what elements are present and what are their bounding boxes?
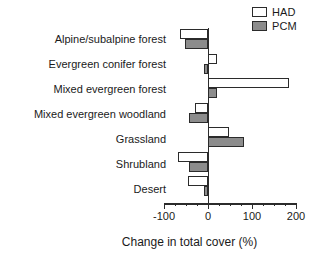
axis-tick--50 [186,203,187,206]
category-label-alpine-subalpine-forest: Alpine/subalpine forest [55,34,166,45]
axis-tick-125 [263,203,264,206]
axis-tick-175 [285,203,286,206]
bar-had-shrubland [178,152,208,162]
bar-had-desert [188,176,208,186]
bar-pcm-evergreen-conifer-forest [204,64,208,74]
value-axis-line [164,203,296,205]
axis-tick--75 [175,203,176,206]
bar-pcm-grassland [208,137,244,147]
bar-had-evergreen-conifer-forest [208,54,217,64]
bar-pcm-alpine-subalpine-forest [185,39,208,49]
category-label-mixed-evergreen-woodland: Mixed evergreen woodland [34,109,166,120]
axis-tick-100 [252,203,253,209]
x-axis-title: Change in total cover (%) [0,236,319,249]
x-axis-title-text: Change in total cover (%) [62,235,257,249]
bar-pcm-shrubland [189,162,208,172]
bar-had-grassland [208,127,229,137]
chart-figure: HAD PCM Alpine/subalpine forest Evergree… [0,0,319,269]
category-label-desert: Desert [134,184,166,195]
axis-tick-50 [230,203,231,206]
axis-tick-0 [208,203,209,209]
axis-tick-25 [219,203,220,206]
legend-label-had: HAD [272,7,296,18]
value-axis-tick-labels: -100 0 100 200 [164,210,296,224]
bar-had-mixed-evergreen-woodland [195,103,208,113]
tick-label-neg100: -100 [153,210,175,222]
bar-pcm-mixed-evergreen-forest [208,88,217,98]
axis-tick-150 [274,203,275,206]
tick-label-100: 100 [243,210,261,222]
bar-pcm-desert [204,186,208,196]
category-label-grassland: Grassland [116,134,166,145]
axis-tick--25 [197,203,198,206]
category-label-mixed-evergreen-forest: Mixed evergreen forest [54,84,167,95]
legend-item-had: HAD [252,6,297,18]
bar-pcm-mixed-evergreen-woodland [189,113,208,123]
tick-label-200: 200 [287,210,305,222]
bar-had-mixed-evergreen-forest [208,78,289,88]
axis-tick-200 [296,203,297,209]
tick-label-0: 0 [205,210,211,222]
plot-area [164,28,296,200]
category-label-evergreen-conifer-forest: Evergreen conifer forest [49,59,166,70]
legend-swatch-had-icon [252,7,267,17]
category-axis-labels: Alpine/subalpine forest Evergreen conife… [0,28,172,200]
bar-had-alpine-subalpine-forest [180,29,208,39]
category-label-shrubland: Shrubland [116,159,166,170]
axis-tick--100 [164,203,165,209]
axis-tick-75 [241,203,242,206]
